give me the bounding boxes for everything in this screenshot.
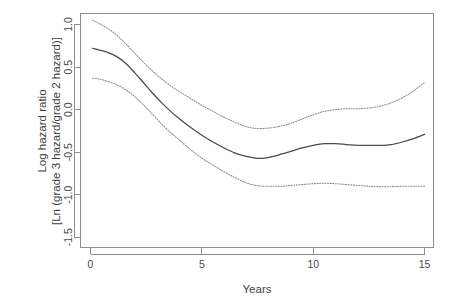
y-tick-label: 0.0 bbox=[63, 102, 75, 117]
y-tick-label: -0.5 bbox=[63, 143, 75, 161]
chart-figure: 1.00.50.0-0.5-1.0-1.5 051015 Years Log h… bbox=[0, 0, 454, 304]
y-axis-title-line2: [Ln (grade 3 hazard/grade 2 hazard)] bbox=[50, 37, 62, 225]
y-axis-title-line1: Log hazard ratio bbox=[36, 89, 48, 172]
x-tick-label: 5 bbox=[199, 258, 205, 270]
x-tick-label: 0 bbox=[88, 258, 94, 270]
x-axis-title: Years bbox=[243, 283, 272, 295]
x-tick-label: 10 bbox=[307, 258, 319, 270]
x-tick-label: 15 bbox=[419, 258, 431, 270]
y-tick-label: -1.0 bbox=[63, 186, 75, 204]
y-tick-label: 0.5 bbox=[63, 60, 75, 75]
y-tick-label: 1.0 bbox=[63, 17, 75, 32]
log-hazard-ratio-line-chart: 1.00.50.0-0.5-1.0-1.5 051015 Years Log h… bbox=[0, 0, 454, 304]
y-tick-label: -1.5 bbox=[63, 228, 75, 246]
